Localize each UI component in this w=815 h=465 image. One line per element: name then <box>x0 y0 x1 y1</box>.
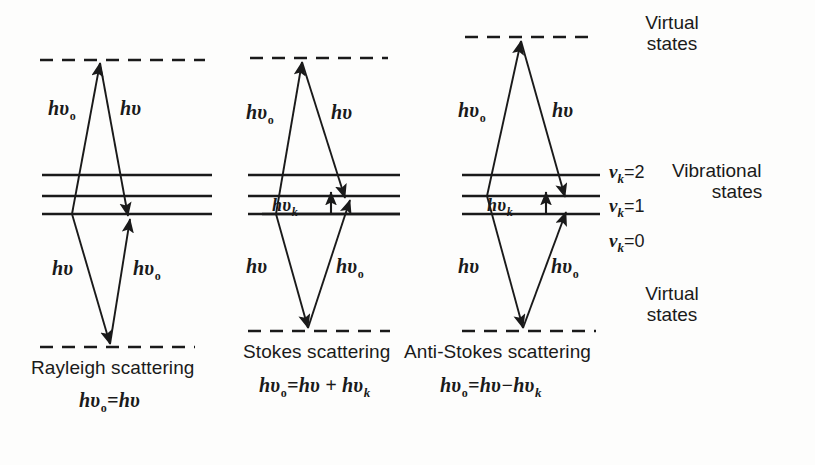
annotation-virtual-states-top: Virtual states <box>617 12 727 55</box>
label-hv-down-p3: hυ <box>458 256 479 276</box>
virtual-top-line2: states <box>617 33 727 54</box>
label-hv0-up-p2: hυo <box>336 256 364 280</box>
vib-line2: states <box>672 181 802 202</box>
arrow-up-hv0-p1 <box>110 219 130 344</box>
level-label-vk2: vk=2 <box>609 162 644 185</box>
caption-anti-stokes: Anti-Stokes scattering <box>404 342 591 361</box>
panel-anti-stokes <box>462 37 600 331</box>
vib-line1: Vibrational <box>672 160 802 181</box>
caption-rayleigh: Rayleigh scattering <box>31 358 194 377</box>
annotation-virtual-states-bottom: Virtual states <box>617 283 727 326</box>
label-hv0-up-p3: hυo <box>551 256 579 280</box>
arrow-emission-hv-p1 <box>100 63 128 216</box>
label-hv0-absorption-p3: hυo <box>458 100 486 124</box>
label-hvk-p3: hυk <box>487 196 513 218</box>
panel-stokes <box>248 58 400 331</box>
label-hv0-up-p1: hυo <box>133 258 161 282</box>
virtual-top-line1: Virtual <box>617 12 727 33</box>
arrow-absorption-hv0-p1 <box>72 63 100 214</box>
label-hv-down-p2: hυ <box>246 256 267 276</box>
caption-stokes: Stokes scattering <box>243 342 390 361</box>
label-hv0-absorption-p1: hυo <box>48 98 76 122</box>
label-hv-emission-p3: hυ <box>552 100 573 120</box>
label-hv-down-p1: hυ <box>52 258 73 278</box>
label-hv0-absorption-p2: hυo <box>246 102 274 126</box>
arrow-emission-hv-p2 <box>302 62 345 198</box>
equation-anti-stokes: hυo=hυ−hυk <box>440 375 542 399</box>
arrow-down-hv-p2 <box>276 214 308 328</box>
raman-energy-level-figure: hυo hυ hυ hυo Rayleigh scattering hυo=hυ… <box>0 0 815 465</box>
arrow-absorption-hv0-p3 <box>487 41 521 196</box>
annotation-vibrational-states: Vibrational states <box>672 160 802 203</box>
label-hv-emission-p1: hυ <box>120 98 141 118</box>
virtual-bottom-line2: states <box>617 304 727 325</box>
equation-stokes: hυo=hυ + hυk <box>259 375 370 399</box>
arrow-down-hv-p1 <box>72 214 110 344</box>
equation-rayleigh: hυo=hυ <box>79 390 140 414</box>
level-label-vk0: vk=0 <box>609 231 644 254</box>
label-hvk-p2: hυk <box>272 196 298 218</box>
level-label-vk1: vk=1 <box>609 196 644 219</box>
label-hv-emission-p2: hυ <box>331 102 352 122</box>
arrow-absorption-hv0-p2 <box>276 62 302 214</box>
virtual-bottom-line1: Virtual <box>617 283 727 304</box>
